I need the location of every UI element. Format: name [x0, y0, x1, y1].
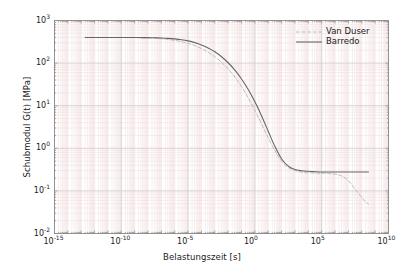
x-tick-label-2: 10-5: [177, 237, 193, 246]
y-tick-label-4: 10-1: [28, 186, 50, 195]
major-gridlines: [55, 21, 389, 234]
legend-label-barredo: Barredo: [326, 36, 360, 46]
x-axis-title: Belastungszeit [s]: [0, 252, 404, 262]
y-tick-label-2: 101: [28, 101, 50, 110]
y-tick-label-5: 10-2: [28, 229, 50, 238]
plot-frame: [55, 21, 389, 234]
y-tick-label-3: 100: [28, 143, 50, 152]
y-tick-label-1: 102: [28, 58, 50, 67]
axis-ticks: [55, 21, 389, 234]
y-tick-label-0: 103: [28, 16, 50, 25]
x-tick-label-4: 105: [311, 237, 325, 246]
legend-label-van-duser: Van Duser: [326, 26, 370, 36]
minor-gridlines: [55, 21, 389, 234]
x-tick-label-3: 100: [244, 237, 258, 246]
x-tick-label-1: 10-10: [110, 237, 130, 246]
x-tick-label-0: 10-15: [44, 237, 64, 246]
figure-container: Belastungszeit [s] Schubmodul G(t) [MPa]…: [0, 0, 404, 273]
x-tick-label-5: 1010: [378, 237, 396, 246]
